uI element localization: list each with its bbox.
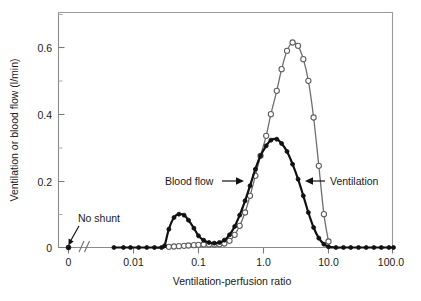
data-point <box>387 246 391 250</box>
data-point <box>275 137 279 141</box>
data-point <box>172 216 176 220</box>
data-point <box>280 142 284 146</box>
data-point <box>306 78 311 83</box>
data-point <box>192 226 196 230</box>
data-point <box>321 212 326 217</box>
data-point <box>379 246 383 250</box>
data-point <box>357 246 361 250</box>
y-axis-ticks <box>59 15 65 248</box>
data-point <box>129 246 133 250</box>
annotation-ventilation: Ventilation <box>305 175 379 187</box>
data-point <box>372 246 376 250</box>
data-point <box>167 227 171 231</box>
data-point <box>202 238 206 242</box>
data-point <box>182 213 186 217</box>
data-point <box>264 133 269 138</box>
x-tick-label: 100.0 <box>378 256 404 268</box>
data-point <box>238 213 242 217</box>
data-point <box>392 246 396 250</box>
data-point <box>334 246 338 250</box>
data-point <box>290 40 295 45</box>
annotation-no-shunt: No shunt <box>69 212 121 246</box>
data-point <box>306 211 310 215</box>
data-point <box>322 242 326 246</box>
data-point <box>284 48 289 53</box>
y-tick-label: 0 <box>46 242 52 254</box>
data-point <box>349 246 353 250</box>
vq-distribution-figure: 0.6 0.4 0.2 0 Ventilation or blood flow … <box>0 0 421 301</box>
data-point <box>121 246 125 250</box>
data-point <box>364 246 368 250</box>
data-point <box>112 246 116 250</box>
data-point <box>197 234 201 238</box>
series-ventilation <box>166 40 331 250</box>
data-point <box>212 241 216 245</box>
data-point <box>233 225 237 229</box>
data-point <box>145 246 149 250</box>
data-point <box>242 210 247 215</box>
data-point <box>207 241 211 245</box>
data-point <box>295 43 300 48</box>
data-point <box>228 233 232 237</box>
data-point <box>301 57 306 62</box>
x-tick-label: 10.0 <box>318 256 339 268</box>
y-tick-label: 0.4 <box>37 109 52 121</box>
x-tick-label: 1.0 <box>256 256 271 268</box>
y-tick-label: 0.6 <box>37 42 52 54</box>
y-tick-label: 0.2 <box>37 176 52 188</box>
data-point <box>237 223 242 228</box>
data-point <box>217 241 221 245</box>
x-tick-label: 0.01 <box>123 256 144 268</box>
blood-flow-arrowhead <box>236 177 244 185</box>
data-point <box>243 199 247 203</box>
data-point <box>274 88 279 93</box>
data-point <box>201 242 206 247</box>
data-point <box>291 162 295 166</box>
shunt-data-point <box>66 245 71 250</box>
x-tick-label: 0 <box>66 256 72 268</box>
data-point <box>327 245 331 249</box>
data-point <box>227 238 232 243</box>
data-point <box>232 232 237 237</box>
data-point <box>316 163 321 168</box>
x-tick-label: 0.1 <box>191 256 206 268</box>
data-point <box>177 212 181 216</box>
y-axis-tick-labels: 0.6 0.4 0.2 0 <box>37 42 52 254</box>
data-point <box>186 243 191 248</box>
data-point <box>222 238 226 242</box>
y-axis-title: Ventilation or blood flow (l/min) <box>8 59 20 202</box>
ventilation-arrowhead <box>305 177 313 185</box>
data-point <box>301 194 305 198</box>
data-point <box>312 226 316 230</box>
axis-break-mark <box>79 241 90 252</box>
data-point <box>296 177 300 181</box>
data-point <box>285 150 289 154</box>
data-point <box>259 154 263 158</box>
data-point <box>326 239 331 244</box>
x-axis-title: Ventilation-perfusion ratio <box>173 275 292 287</box>
series-blood-flow <box>66 137 395 250</box>
data-point <box>137 246 141 250</box>
data-point <box>269 138 273 142</box>
ventilation-label: Ventilation <box>330 175 379 187</box>
data-point <box>248 184 252 188</box>
data-point <box>166 244 171 249</box>
data-point <box>268 112 273 117</box>
chart-svg: 0.6 0.4 0.2 0 Ventilation or blood flow … <box>0 0 421 301</box>
data-point <box>253 167 257 171</box>
data-point <box>317 236 321 240</box>
x-axis-tick-labels: 0 0.01 0.1 1.0 10.0 100.0 <box>66 256 405 268</box>
data-point <box>311 115 316 120</box>
data-point <box>176 244 181 249</box>
series-line <box>114 139 394 248</box>
data-point <box>152 246 156 250</box>
data-point <box>279 67 284 72</box>
series-line <box>169 42 329 247</box>
data-point <box>196 242 201 247</box>
data-point <box>186 218 190 222</box>
annotation-blood-flow: Blood flow <box>165 175 244 187</box>
no-shunt-label: No shunt <box>78 212 120 224</box>
blood-flow-label: Blood flow <box>165 175 214 187</box>
data-point <box>163 244 167 248</box>
data-point <box>341 246 345 250</box>
